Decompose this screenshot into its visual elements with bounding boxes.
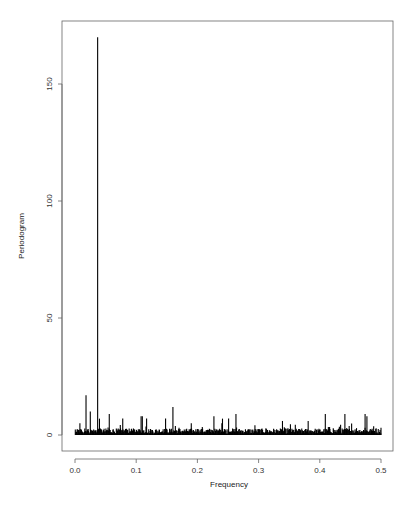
y-axis-label: Periodogram <box>17 213 26 259</box>
periodogram-bars <box>75 37 381 435</box>
y-axis: 050100150 <box>45 77 62 437</box>
x-tick-label: 0.5 <box>375 466 387 475</box>
x-axis-label: Frequency <box>210 480 248 489</box>
x-tick-label: 0.1 <box>131 466 143 475</box>
y-tick-label: 100 <box>45 194 54 208</box>
periodogram-chart: 0.00.10.20.30.40.5 050100150 Frequency P… <box>0 0 413 510</box>
y-tick-label: 50 <box>45 313 54 322</box>
x-axis: 0.00.10.20.30.40.5 <box>69 459 387 475</box>
y-tick-label: 150 <box>45 77 54 91</box>
x-tick-label: 0.2 <box>192 466 204 475</box>
x-tick-label: 0.4 <box>314 466 326 475</box>
y-tick-label: 0 <box>45 432 54 437</box>
x-tick-label: 0.0 <box>69 466 81 475</box>
plot-frame <box>62 21 393 451</box>
x-tick-label: 0.3 <box>253 466 265 475</box>
